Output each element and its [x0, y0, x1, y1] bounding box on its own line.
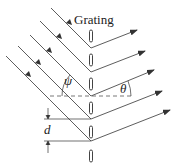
diffracted-rays [91, 30, 170, 141]
theta-arc [128, 81, 131, 96]
grating-label: Grating [74, 13, 114, 26]
spacing-markers [44, 108, 91, 153]
theta-label: θ [120, 82, 126, 95]
psi-label: ψ [64, 74, 72, 87]
grating-diagram: Grating ψ θ d [0, 0, 178, 168]
spacing-d-label: d [44, 123, 51, 136]
